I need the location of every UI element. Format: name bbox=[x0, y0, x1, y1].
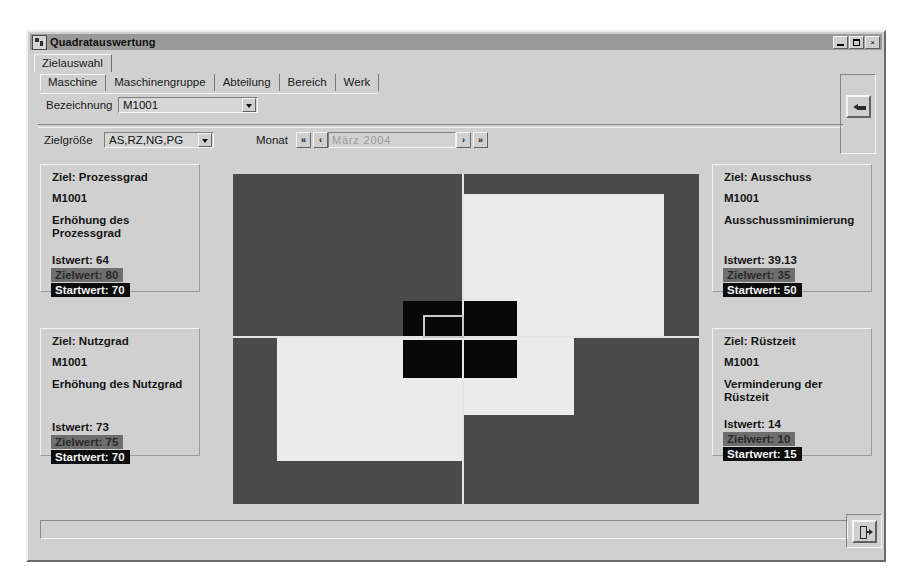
chevron-down-icon[interactable] bbox=[242, 98, 256, 112]
panel-machine: M1001 bbox=[724, 192, 759, 204]
next-month-button[interactable]: › bbox=[456, 132, 471, 148]
bezeichnung-value: M1001 bbox=[119, 99, 242, 111]
panel-machine: M1001 bbox=[52, 356, 87, 368]
panel-title: Ziel: Nutzgrad bbox=[52, 335, 129, 347]
bezeichnung-label: Bezeichnung bbox=[46, 99, 118, 111]
zielgroesse-label: Zielgröße bbox=[44, 134, 104, 146]
tab-bereich[interactable]: Bereich bbox=[280, 74, 336, 91]
bezeichnung-row: Bezeichnung M1001 bbox=[46, 97, 258, 113]
zielgroesse-combo[interactable]: AS,RZ,NG,PG bbox=[104, 132, 214, 148]
scope-tabstrip: Maschine Maschinengruppe Abteilung Berei… bbox=[40, 74, 379, 91]
app-icon bbox=[32, 35, 47, 50]
selection-group: Maschine Maschinengruppe Abteilung Berei… bbox=[36, 74, 836, 121]
tab-abteilung[interactable]: Abteilung bbox=[215, 74, 280, 91]
panel-istwert: Istwert: 39.13 bbox=[724, 254, 797, 266]
panel-description: Verminderung der Rüstzeit bbox=[724, 378, 864, 403]
panel-istwert: Istwert: 73 bbox=[52, 421, 109, 433]
zielgroesse-row: Zielgröße AS,RZ,NG,PG bbox=[44, 132, 214, 148]
panel-startwert: Startwert: 70 bbox=[51, 283, 130, 297]
window-titlebar: Quadratauswertung × bbox=[30, 34, 882, 50]
prev-month-button[interactable]: ‹ bbox=[313, 132, 328, 148]
panel-zielwert: Zielwert: 35 bbox=[723, 268, 795, 282]
panel-description: Erhöhung des Prozessgrad bbox=[52, 214, 192, 239]
scope-tab-divider bbox=[40, 93, 378, 94]
panel-title: Ziel: Prozessgrad bbox=[52, 171, 148, 183]
close-icon[interactable]: × bbox=[865, 36, 880, 49]
panel-startwert: Startwert: 50 bbox=[723, 283, 802, 297]
panel-machine: M1001 bbox=[52, 192, 87, 204]
panel-zielwert: Zielwert: 80 bbox=[51, 268, 123, 282]
application-window: Quadratauswertung × Zielauswahl Maschine… bbox=[26, 30, 886, 562]
tab-maschine[interactable]: Maschine bbox=[40, 74, 106, 91]
client-area: Maschine Maschinengruppe Abteilung Berei… bbox=[34, 72, 878, 558]
arrow-left-icon bbox=[853, 104, 866, 111]
panel-istwert: Istwert: 14 bbox=[724, 418, 781, 430]
section-divider bbox=[38, 124, 843, 128]
tab-werk[interactable]: Werk bbox=[336, 74, 380, 91]
panel-description: Ausschussminimierung bbox=[724, 214, 864, 227]
panel-zielwert: Zielwert: 10 bbox=[723, 432, 795, 446]
door-exit-icon bbox=[860, 526, 872, 539]
tab-zielauswahl[interactable]: Zielauswahl bbox=[34, 54, 112, 72]
maximize-button[interactable] bbox=[849, 36, 864, 49]
outer-tabstrip: Zielauswahl bbox=[34, 54, 878, 73]
back-button[interactable] bbox=[846, 95, 871, 118]
panel-description: Erhöhung des Nutzgrad bbox=[52, 378, 192, 391]
quadrant-chart[interactable] bbox=[233, 174, 699, 504]
chevron-down-icon[interactable] bbox=[198, 133, 212, 147]
status-text bbox=[40, 520, 848, 539]
monat-navigation: Monat « ‹ März 2004 › » bbox=[256, 132, 488, 148]
panel-title: Ziel: Rüstzeit bbox=[724, 335, 796, 347]
panel-startwert: Startwert: 15 bbox=[723, 447, 802, 461]
panel-ruestzeit: Ziel: Rüstzeit M1001 Verminderung der Rü… bbox=[712, 328, 872, 456]
minimize-button[interactable] bbox=[833, 36, 848, 49]
panel-ausschuss: Ziel: Ausschuss M1001 Ausschussminimieru… bbox=[712, 164, 872, 292]
panel-istwert: Istwert: 64 bbox=[52, 254, 109, 266]
panel-prozessgrad: Ziel: Prozessgrad M1001 Erhöhung des Pro… bbox=[40, 164, 200, 292]
back-button-group bbox=[840, 74, 876, 154]
window-controls: × bbox=[833, 36, 880, 49]
tab-maschinengruppe[interactable]: Maschinengruppe bbox=[106, 74, 214, 91]
monat-value-field[interactable]: März 2004 bbox=[328, 132, 456, 148]
statusbar bbox=[40, 514, 884, 554]
monat-label: Monat bbox=[256, 134, 288, 146]
exit-button[interactable] bbox=[852, 520, 877, 543]
zielgroesse-value: AS,RZ,NG,PG bbox=[105, 134, 198, 146]
panel-title: Ziel: Ausschuss bbox=[724, 171, 812, 183]
window-title: Quadratauswertung bbox=[50, 36, 833, 48]
panel-startwert: Startwert: 70 bbox=[51, 450, 130, 464]
last-month-button[interactable]: » bbox=[473, 132, 488, 148]
chart-center-target-outline bbox=[423, 315, 464, 338]
first-month-button[interactable]: « bbox=[296, 132, 311, 148]
panel-nutzgrad: Ziel: Nutzgrad M1001 Erhöhung des Nutzgr… bbox=[40, 328, 200, 456]
bezeichnung-combo[interactable]: M1001 bbox=[118, 97, 258, 113]
exit-button-group bbox=[846, 514, 882, 548]
chart-center-axis-vertical bbox=[462, 301, 464, 378]
panel-zielwert: Zielwert: 75 bbox=[51, 435, 123, 449]
panel-machine: M1001 bbox=[724, 356, 759, 368]
chart-center-block bbox=[403, 340, 517, 378]
